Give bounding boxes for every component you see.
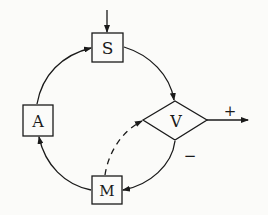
- feedback-loop-diagram: S A M V + −: [0, 0, 268, 215]
- node-s-label: S: [102, 38, 114, 58]
- minus-label: −: [184, 147, 197, 165]
- plus-label: +: [224, 102, 237, 120]
- node-m-label: M: [99, 182, 114, 200]
- node-v: V: [143, 101, 207, 140]
- node-s: S: [92, 33, 123, 62]
- edge-s-to-v: [124, 47, 174, 100]
- node-m: M: [92, 176, 122, 204]
- diagram-canvas: S A M V + −: [0, 0, 268, 215]
- edge-m-to-v-dashed: [105, 121, 142, 175]
- node-a-label: A: [31, 112, 44, 131]
- edge-a-to-s: [37, 48, 91, 104]
- edge-v-to-m: [123, 141, 175, 190]
- node-v-label: V: [169, 112, 182, 131]
- node-a: A: [23, 105, 53, 136]
- edge-m-to-a: [39, 137, 91, 190]
